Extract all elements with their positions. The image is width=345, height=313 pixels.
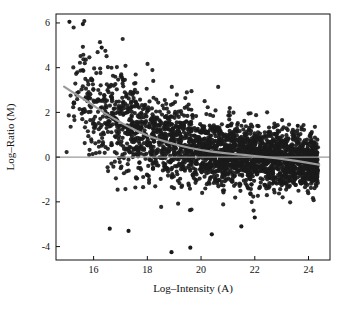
data-point (197, 142, 201, 146)
data-point (121, 136, 125, 140)
data-point (179, 185, 183, 189)
data-point (313, 125, 317, 129)
data-point (132, 82, 136, 86)
data-point (182, 114, 186, 118)
data-point (280, 118, 284, 122)
data-point (180, 164, 184, 168)
data-point (140, 103, 144, 107)
data-point (226, 113, 230, 117)
data-point (117, 131, 121, 135)
data-point (71, 65, 75, 69)
data-point (188, 187, 192, 191)
data-point (72, 118, 76, 122)
data-point (266, 175, 270, 179)
data-point (72, 101, 76, 105)
data-point (265, 150, 269, 154)
data-point (150, 68, 154, 72)
data-point (119, 72, 123, 76)
data-point (316, 145, 320, 149)
data-point (161, 104, 165, 108)
data-point (123, 78, 127, 82)
data-point (275, 163, 279, 167)
data-point (240, 174, 244, 178)
data-point (138, 145, 142, 149)
data-point (175, 113, 179, 117)
data-point (108, 227, 112, 231)
data-point (261, 136, 265, 140)
data-point (157, 118, 161, 122)
data-point (91, 152, 95, 156)
data-point (84, 87, 88, 91)
data-point (100, 123, 104, 127)
data-point (83, 125, 87, 129)
data-point (167, 110, 171, 114)
data-point (154, 109, 158, 113)
data-point (183, 161, 187, 165)
data-point (296, 189, 300, 193)
data-point (228, 106, 232, 110)
data-point (271, 177, 275, 181)
data-point (81, 108, 85, 112)
data-point (206, 144, 210, 148)
data-point (91, 82, 95, 86)
data-point (134, 176, 138, 180)
data-point (224, 165, 228, 169)
data-point (255, 165, 259, 169)
data-point (306, 191, 310, 195)
data-point (226, 176, 230, 180)
data-point (116, 188, 120, 192)
data-point (132, 147, 136, 151)
data-point (108, 84, 112, 88)
data-point (123, 187, 127, 191)
data-point (289, 148, 293, 152)
data-point (158, 110, 162, 114)
data-point (188, 167, 192, 171)
data-point (301, 123, 305, 127)
data-point (297, 149, 301, 153)
data-point (208, 134, 212, 138)
data-point (194, 168, 198, 172)
data-point (98, 91, 102, 95)
data-point (147, 99, 151, 103)
data-point (163, 120, 167, 124)
data-point (267, 134, 271, 138)
data-point (218, 169, 222, 173)
data-point (251, 151, 255, 155)
data-point (191, 174, 195, 178)
data-point (221, 202, 225, 206)
data-point (115, 141, 119, 145)
data-point (264, 167, 268, 171)
data-point (187, 137, 191, 141)
data-point (220, 122, 224, 126)
data-point (137, 112, 141, 116)
data-point (81, 69, 85, 73)
data-point (138, 98, 142, 102)
data-point (246, 150, 250, 154)
data-point (195, 178, 199, 182)
data-point (115, 87, 119, 91)
data-point (155, 161, 159, 165)
data-point (280, 127, 284, 131)
data-point (258, 144, 262, 148)
data-point (159, 205, 163, 209)
data-point (109, 161, 113, 165)
data-point (170, 130, 174, 134)
data-point (293, 175, 297, 179)
data-point (266, 184, 270, 188)
data-point (112, 84, 116, 88)
data-point (166, 150, 170, 154)
data-point (91, 88, 95, 92)
data-point (283, 143, 287, 147)
data-point (94, 71, 98, 75)
x-tick-label: 18 (142, 264, 152, 275)
data-point (133, 104, 137, 108)
data-point (216, 132, 220, 136)
data-point (291, 180, 295, 184)
data-point (189, 89, 193, 93)
data-point (169, 114, 173, 118)
ma-plot-figure: 1618202224-4-20246Log–Intensity (A)Log–R… (0, 0, 345, 313)
data-point (253, 135, 257, 139)
data-point (207, 140, 211, 144)
data-point (235, 123, 239, 127)
data-point (302, 177, 306, 181)
